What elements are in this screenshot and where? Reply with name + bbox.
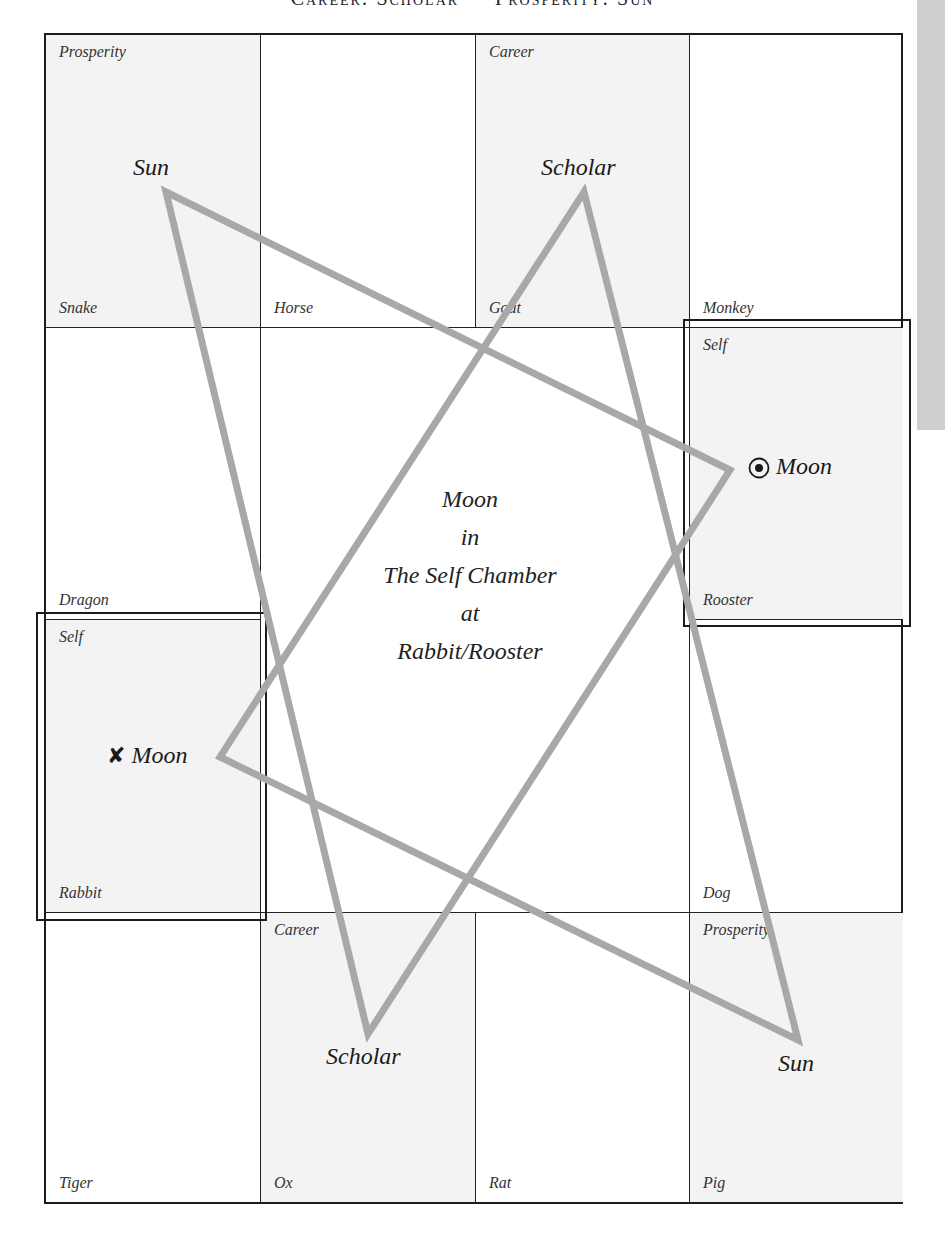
star-sun-bottom: Sun (778, 1050, 814, 1077)
center-line: in (340, 518, 600, 556)
chamber-label: Self (703, 336, 727, 354)
chamber-label: Prosperity (703, 921, 770, 939)
cell-horse: Horse (261, 35, 476, 328)
animal-label: Pig (703, 1174, 725, 1192)
animal-label: Monkey (703, 299, 754, 317)
cell-goat: Career Goat (476, 35, 690, 328)
chamber-label: Self (59, 628, 83, 646)
cell-dragon: Dragon (46, 328, 261, 620)
animal-label: Dog (703, 884, 731, 902)
animal-label: Rooster (703, 591, 753, 609)
moon-label: Moon (131, 742, 187, 768)
chamber-label: Career (274, 921, 319, 939)
cell-tiger: Tiger (46, 913, 261, 1202)
page-side-tab (917, 0, 945, 430)
animal-label: Rat (489, 1174, 511, 1192)
animal-label: Horse (274, 299, 313, 317)
animal-label: Goat (489, 299, 521, 317)
cell-rat: Rat (476, 913, 690, 1202)
star-scholar-top: Scholar (541, 154, 616, 181)
animal-label: Snake (59, 299, 97, 317)
star-scholar-bottom: Scholar (326, 1043, 401, 1070)
star-sun-top: Sun (133, 154, 169, 181)
center-line: at (340, 594, 600, 632)
animal-label: Rabbit (59, 884, 102, 902)
cell-dog: Dog (690, 620, 903, 913)
center-line: The Self Chamber (340, 556, 600, 594)
star-moon-rabbit: ✘Moon (107, 742, 187, 769)
animal-label: Ox (274, 1174, 293, 1192)
chamber-label: Career (489, 43, 534, 61)
x-mark-icon: ✘ (107, 743, 125, 768)
star-moon-rooster: Moon (748, 453, 832, 480)
center-line: Moon (340, 480, 600, 518)
animal-label: Dragon (59, 591, 109, 609)
diagram-title: Career: Scholar — Prosperity: Sun (0, 0, 945, 10)
center-line: Rabbit/Rooster (340, 632, 600, 670)
chamber-label: Prosperity (59, 43, 126, 61)
moon-label: Moon (776, 453, 832, 479)
animal-label: Tiger (59, 1174, 93, 1192)
cell-snake: Prosperity Snake (46, 35, 261, 328)
cell-monkey: Monkey (690, 35, 903, 328)
circled-dot-icon (748, 457, 770, 479)
center-caption: Moon in The Self Chamber at Rabbit/Roost… (340, 480, 600, 670)
